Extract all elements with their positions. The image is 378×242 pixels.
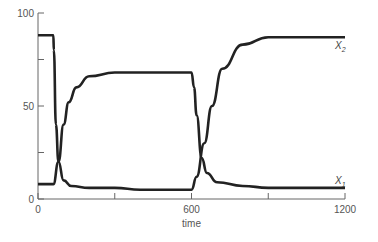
series-line-x1 [38, 73, 345, 188]
y-tick-label: 0 [28, 194, 34, 205]
y-tick-label: 50 [23, 101, 35, 112]
line-chart: 06001200050100time X1X2 [0, 0, 378, 242]
series-label-x2: X2 [334, 40, 346, 53]
series-line-x2 [38, 35, 345, 189]
series-label-x1: X1 [334, 175, 346, 188]
x-tick-label: 1200 [334, 204, 357, 215]
series-labels: X1X2 [334, 40, 346, 188]
series-lines [38, 35, 345, 189]
x-tick-label: 600 [183, 204, 200, 215]
axis-labels: 06001200050100time [17, 8, 356, 229]
x-axis-title: time [182, 218, 201, 229]
axes [38, 13, 345, 199]
x-tick-label: 0 [35, 204, 41, 215]
y-tick-label: 100 [17, 8, 34, 19]
